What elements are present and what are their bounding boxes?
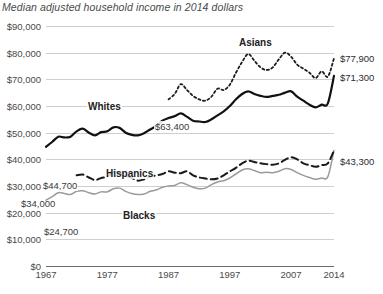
series-lines [46,26,334,266]
y-axis-tick-label: $80,000 [7,47,41,58]
x-axis-tick-label: 1967 [35,269,56,280]
end-label-hispanics: $43,300 [340,156,374,167]
x-axis-tick-label: 2014 [323,269,344,280]
annotation-blacks-start: $24,700 [43,226,79,237]
y-axis-tick-label: $90,000 [7,21,41,32]
series-label-whites: Whites [87,101,122,112]
y-axis-tick-label: $60,000 [7,101,41,112]
annotation-whites-mid: $63,400 [154,121,190,132]
x-axis-tick-label: 1987 [158,269,179,280]
annotation-hispanics-start: $34,000 [20,198,56,209]
x-axis-tick-label: 1977 [97,269,118,280]
x-axis-tick-label: 2007 [281,269,302,280]
annotation-whites-start: $44,700 [42,180,78,191]
series-label-blacks: Blacks [122,210,156,221]
chart-title: Median adjusted household income in 2014… [2,1,243,13]
plot-area: $90,000$80,000$70,000$60,000$50,000$40,0… [46,26,334,266]
series-label-hispanics: Hispanics [105,168,154,179]
y-axis-tick-label: $50,000 [7,127,41,138]
gridline [46,266,334,267]
series-line-blacks [46,151,334,201]
series-label-asians: Asians [238,37,273,48]
end-label-asians: $77,900 [340,53,374,64]
chart-figure: Median adjusted household income in 2014… [0,0,383,294]
y-axis-tick-label: $10,000 [7,234,41,245]
x-axis-tick-label: 1997 [219,269,240,280]
y-axis-tick-label: $40,000 [7,154,41,165]
y-axis-tick-label: $70,000 [7,74,41,85]
y-axis-tick-label: $30,000 [7,181,41,192]
end-label-whites: $71,300 [340,72,374,83]
